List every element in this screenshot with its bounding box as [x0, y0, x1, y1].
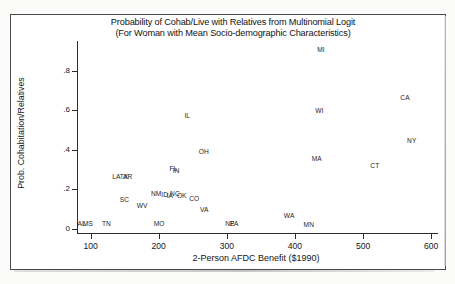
data-point-mn: MN — [304, 221, 314, 228]
data-point-pa: PA — [230, 220, 239, 227]
data-point-in: IN — [173, 167, 180, 174]
y-axis-tick — [72, 150, 78, 151]
data-point-oh: OH — [199, 148, 209, 155]
scan-edge-artifact-right — [444, 16, 446, 266]
y-axis-tick — [72, 110, 78, 111]
y-axis-tick-label: .2 — [36, 184, 70, 193]
y-axis-tick — [72, 189, 78, 190]
data-point-co: CO — [189, 195, 199, 202]
data-point-wi: WI — [315, 107, 323, 114]
y-axis-tick-label: .4 — [36, 145, 70, 154]
data-point-wv: WV — [137, 202, 148, 209]
data-point-ok: OK — [177, 192, 187, 199]
data-point-mo: MO — [154, 220, 165, 227]
x-axis-tick — [159, 234, 160, 239]
x-axis-tick — [295, 234, 296, 239]
x-axis-tick-label: 200 — [139, 241, 179, 251]
x-axis-line — [77, 233, 438, 234]
figure-frame — [10, 14, 446, 270]
data-point-ca: CA — [400, 94, 409, 101]
chart-title-line-1: Probability of Cohab/Live with Relatives… — [68, 17, 398, 28]
x-axis-tick — [227, 234, 228, 239]
data-point-ma: MA — [312, 155, 322, 162]
x-axis-title: 2-Person AFDC Benefit ($1990) — [96, 253, 416, 263]
x-axis-tick — [91, 234, 92, 239]
y-axis-tick-label: 0 — [36, 224, 70, 233]
data-point-sc: SC — [120, 196, 129, 203]
x-axis-tick-label: 300 — [207, 241, 247, 251]
y-axis-tick-label: .6 — [36, 105, 70, 114]
data-point-tn: TN — [102, 220, 111, 227]
data-point-ar: AR — [123, 173, 132, 180]
x-axis-tick-label: 500 — [343, 241, 383, 251]
x-axis-tick-label: 100 — [71, 241, 111, 251]
data-point-wa: WA — [284, 212, 295, 219]
chart-title: Probability of Cohab/Live with Relatives… — [68, 17, 398, 39]
y-axis-tick — [72, 71, 78, 72]
x-axis-tick — [363, 234, 364, 239]
y-axis-tick-label: .8 — [36, 66, 70, 75]
y-axis-tick — [72, 229, 78, 230]
data-point-ny: NY — [407, 137, 416, 144]
x-axis-tick-label: 400 — [275, 241, 315, 251]
data-point-mi: MI — [317, 46, 325, 53]
chart-title-line-2: (For Woman with Mean Socio-demographic C… — [68, 28, 398, 39]
data-point-ms: MS — [83, 220, 93, 227]
scan-edge-artifact-bottom — [14, 270, 434, 272]
data-point-ct: CT — [370, 162, 379, 169]
data-point-va: VA — [200, 206, 209, 213]
x-axis-tick-label: 600 — [411, 241, 451, 251]
data-point-nm: NM — [151, 190, 161, 197]
x-axis-tick — [431, 234, 432, 239]
y-axis-title: Prob. Cohabitation/Relatives — [16, 38, 26, 228]
data-point-il: IL — [184, 112, 190, 119]
figure-screenshot: Probability of Cohab/Live with Relatives… — [0, 0, 455, 284]
